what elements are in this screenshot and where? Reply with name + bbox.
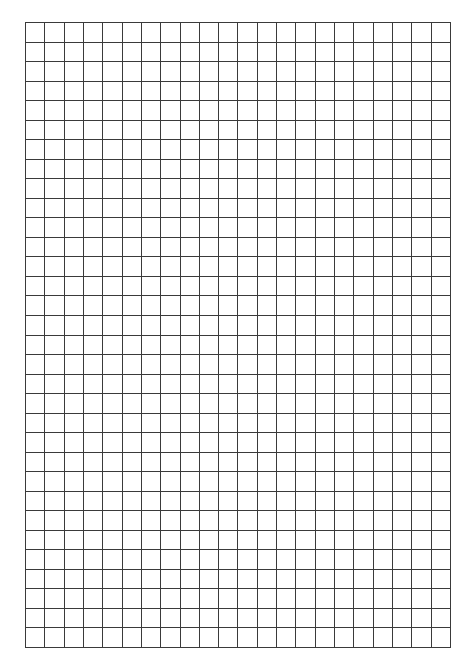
graph-paper-grid bbox=[25, 22, 450, 647]
grid-lines bbox=[25, 22, 451, 648]
